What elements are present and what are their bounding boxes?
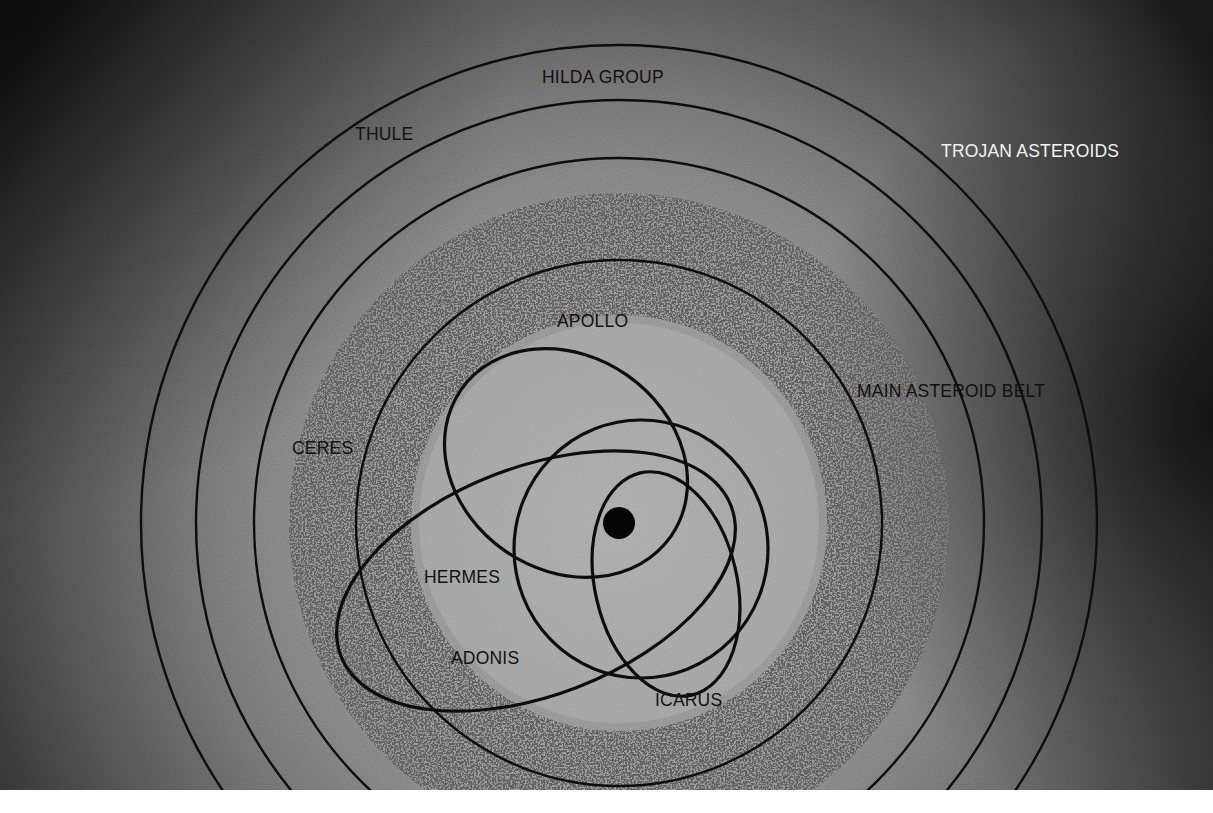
label-thule: THULE [355,124,413,144]
label-main-asteroid-belt: MAIN ASTEROID BELT [857,381,1045,401]
label-trojan-asteroids: TROJAN ASTEROIDS [941,141,1119,161]
sun-icon [603,507,635,539]
orbit-diagram-svg: HILDA GROUP THULE TROJAN ASTEROIDS APOLL… [0,0,1213,790]
label-hermes: HERMES [424,567,500,587]
bottom-white-strip [0,790,1213,813]
label-adonis: ADONIS [451,648,519,668]
label-ceres: CERES [292,438,353,458]
asteroid-orbit-diagram: HILDA GROUP THULE TROJAN ASTEROIDS APOLL… [0,0,1213,790]
label-icarus: ICARUS [655,690,722,710]
label-apollo: APOLLO [557,311,628,331]
label-hilda-group: HILDA GROUP [542,67,664,87]
